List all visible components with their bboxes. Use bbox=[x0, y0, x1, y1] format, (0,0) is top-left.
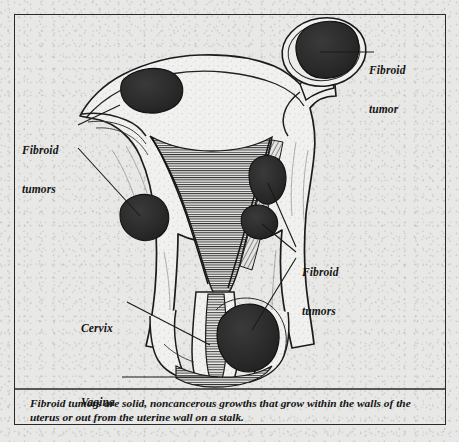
leader-fibroid-tumors-left-b bbox=[78, 148, 140, 216]
label-fibroid-tumor-pedunculated: Fibroid tumor bbox=[369, 38, 406, 142]
label-line: tumor bbox=[369, 103, 406, 116]
figure-page: Fibroid tumor Fibroid tumors Fibroid tum… bbox=[0, 0, 459, 442]
label-line: tumors bbox=[22, 183, 59, 196]
label-line: Cervix bbox=[81, 322, 113, 335]
tumor-pedunculated bbox=[296, 21, 359, 78]
uterus-body bbox=[80, 55, 336, 387]
figure-caption: Fibroid tumors are solid, noncancerous g… bbox=[30, 396, 430, 425]
label-line: tumors bbox=[302, 305, 339, 318]
label-fibroid-tumors-left: Fibroid tumors bbox=[22, 118, 59, 222]
tumor-cervical bbox=[217, 304, 279, 372]
label-line: Fibroid bbox=[22, 144, 59, 157]
label-line: Fibroid bbox=[369, 64, 406, 77]
label-cervix: Cervix bbox=[81, 296, 113, 361]
tumor-fundus-left bbox=[121, 68, 183, 113]
label-fibroid-tumors-right: Fibroid tumors bbox=[302, 240, 339, 344]
label-line: Fibroid bbox=[302, 266, 339, 279]
